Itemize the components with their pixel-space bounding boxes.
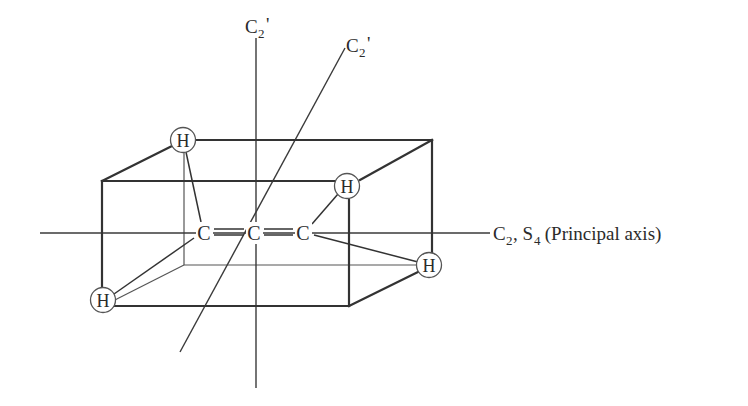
- cube-back-edges: [103, 140, 429, 306]
- c2d-sub: 2: [359, 45, 366, 60]
- hydrogen-top-left: H: [171, 128, 196, 153]
- principal-sep: , S: [513, 223, 533, 244]
- carbon-1: C: [197, 222, 210, 244]
- c2-prime-diagonal-label: C 2 ': [346, 33, 370, 60]
- hydrogen-atoms: H H H H: [91, 128, 442, 313]
- principal-rest: (Principal axis): [540, 223, 661, 245]
- c2d-prime: ': [367, 33, 370, 54]
- hydrogen-right-lower: H: [417, 253, 442, 278]
- bond-c1-h-top: [186, 152, 201, 222]
- c2v-sub: 2: [258, 26, 265, 41]
- hydrogen-label: H: [97, 291, 110, 311]
- top-right-depth-edge: [360, 140, 432, 180]
- principal-sub: 2: [506, 233, 513, 248]
- hydrogen-label: H: [423, 256, 436, 276]
- carbon-3: C: [296, 222, 309, 244]
- bond-c3-h-lower: [314, 235, 418, 262]
- top-left-depth-edge: [102, 146, 172, 181]
- c2v-main: C: [245, 16, 258, 37]
- allene-symmetry-diagram: C C C H H H H C 2 ' C 2 ' C: [0, 0, 748, 406]
- bottom-right-depth-edge: [349, 272, 418, 306]
- hydrogen-label: H: [177, 131, 190, 151]
- hydrogen-right-upper: H: [335, 174, 360, 199]
- hydrogen-bottom-left: H: [91, 288, 116, 313]
- bond-c3-h-upper: [312, 194, 338, 224]
- c2d-main: C: [346, 35, 359, 56]
- hydrogen-label: H: [341, 177, 354, 197]
- carbon-2: C: [247, 222, 260, 244]
- principal-axis-label: C 2 , S 4 (Principal axis): [493, 223, 661, 248]
- c2v-prime: ': [266, 14, 269, 35]
- c2-prime-vertical-label: C 2 ': [245, 14, 269, 41]
- principal-main: C: [493, 223, 506, 244]
